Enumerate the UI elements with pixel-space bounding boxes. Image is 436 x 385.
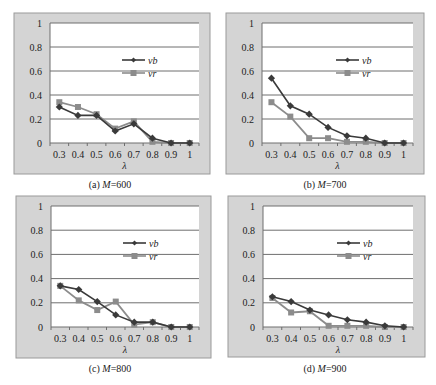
y-tick-label: 0.8 [30,42,43,53]
caption-label: (c) [89,363,103,375]
legend-marker-vr [346,253,352,259]
x-tick-label: 0.3 [265,149,278,160]
y-tick-label: 0.2 [31,297,44,308]
x-tick-label: 0.7 [341,149,354,160]
x-tick-label: 1 [401,333,406,344]
y-tick-label: 0.4 [242,90,255,101]
y-tick-label: 0.8 [243,225,256,236]
x-tick-label: 0.4 [72,149,85,160]
x-tick-label: 0.7 [341,333,354,344]
legend-label-vr: vr [149,251,157,262]
chart-panel-b: 00.20.40.60.810.30.40.50.60.70.80.91λvbv… [226,13,424,191]
panel-caption: (d) M=900 [303,363,346,375]
x-tick-label: 0.6 [110,333,123,344]
data-point-vr [76,297,82,303]
x-tick-label: 0.5 [304,333,317,344]
y-tick-label: 0.2 [30,114,43,125]
x-tick-label: 0.6 [322,149,335,160]
legend-label-vb: vb [363,238,372,249]
data-point-vr [288,309,294,315]
x-tick-label: 0.4 [284,149,297,160]
data-point-vr [326,323,332,329]
panel-caption: (c) M=800 [89,363,132,375]
data-point-vr [325,135,331,141]
legend-marker-vr [345,70,351,76]
x-tick-label: 0.3 [266,333,279,344]
data-point-vr [268,99,274,105]
legend-label-vb: vb [362,55,371,66]
legend-label-vb: vb [149,238,158,249]
caption-value: =600 [111,179,132,190]
y-tick-label: 0.2 [242,114,255,125]
x-tick-label: 0.5 [91,333,104,344]
x-tick-label: 1 [187,149,192,160]
y-tick-label: 0.6 [242,66,255,77]
x-tick-label: 0.8 [360,149,373,160]
y-tick-label: 0 [250,322,255,333]
x-tick-label: 0.8 [146,149,159,160]
y-tick-label: 0 [249,138,254,149]
plot-area [262,23,413,143]
plot-area [51,206,199,327]
x-axis-title: λ [335,344,341,355]
y-tick-label: 0 [37,138,42,149]
caption-label: (d) [303,363,317,375]
caption-label: (b) [303,179,317,191]
chart-panel-a: 00.20.40.60.810.30.40.50.60.70.80.91λvbv… [14,13,210,191]
y-tick-label: 0.6 [243,249,256,260]
y-tick-label: 0 [38,322,43,333]
y-tick-label: 0.2 [243,297,256,308]
legend-label-vr: vr [362,68,370,79]
x-axis-title: λ [121,160,127,171]
x-tick-label: 1 [187,333,192,344]
x-tick-label: 0.4 [73,333,86,344]
legend-label-vr: vr [148,68,156,79]
legend-marker-vr [132,253,138,259]
x-tick-label: 0.5 [303,149,316,160]
x-tick-label: 0.9 [165,149,178,160]
x-tick-label: 0.4 [285,333,298,344]
x-tick-label: 0.6 [109,149,122,160]
x-tick-label: 0.8 [360,333,373,344]
y-tick-label: 1 [38,201,43,212]
y-tick-label: 1 [249,18,254,29]
x-tick-label: 0.6 [322,333,335,344]
x-tick-label: 0.7 [128,333,141,344]
x-tick-label: 0.8 [147,333,160,344]
x-tick-label: 0.9 [165,333,178,344]
x-axis-title: λ [334,160,340,171]
y-tick-label: 1 [250,201,255,212]
data-point-vr [113,299,119,305]
y-tick-label: 0.8 [242,42,255,53]
data-point-vr [344,139,350,145]
caption-value: =800 [111,363,132,374]
caption-label: (a) [89,179,103,191]
x-tick-label: 0.9 [379,333,392,344]
x-tick-label: 0.3 [54,333,67,344]
y-tick-label: 0.4 [30,90,43,101]
y-tick-label: 1 [37,18,42,29]
panel-caption: (b) M=700 [303,179,346,191]
x-tick-label: 0.7 [128,149,141,160]
data-point-vr [344,323,350,329]
data-point-vr [287,114,293,120]
chart-panel-d: 00.20.40.60.810.30.40.50.60.70.80.91λvbv… [228,196,425,375]
x-tick-label: 1 [401,149,406,160]
legend-label-vb: vb [148,55,157,66]
data-point-vr [75,104,81,110]
data-point-vr [306,135,312,141]
data-point-vr [94,307,100,313]
y-tick-label: 0.4 [31,273,44,284]
x-tick-label: 0.3 [53,149,66,160]
y-tick-label: 0.4 [243,273,256,284]
figure-four-line-charts: 00.20.40.60.810.30.40.50.60.70.80.91λvbv… [0,0,436,385]
legend-marker-vr [131,70,137,76]
caption-value: =700 [326,179,347,190]
caption-value: =900 [326,363,347,374]
x-tick-label: 0.5 [90,149,103,160]
panel-caption: (a) M=600 [89,179,132,191]
y-tick-label: 0.6 [30,66,43,77]
chart-panel-c: 00.20.40.60.810.30.40.50.60.70.80.91λvbv… [16,196,211,375]
y-tick-label: 0.6 [31,249,44,260]
legend-label-vr: vr [363,251,371,262]
